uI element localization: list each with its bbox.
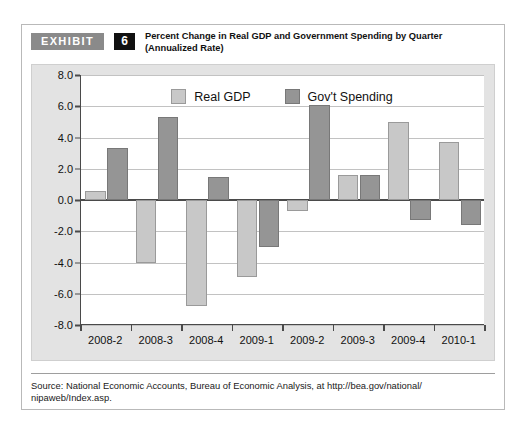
x-axis-tick-label: 2009-3 xyxy=(341,334,375,346)
bar-govt-spending-2008-2 xyxy=(107,148,128,200)
bars-group xyxy=(81,75,484,324)
x-axis-tick-mark xyxy=(131,325,133,331)
x-axis-tick-mark xyxy=(333,325,335,331)
bar-govt-spending-2008-4 xyxy=(208,177,229,200)
source-line-1: Source: National Economic Accounts, Bure… xyxy=(31,380,422,391)
x-axis-tick-mark xyxy=(434,325,436,331)
y-axis-tick-mark xyxy=(75,106,80,108)
exhibit-tag-label: EXHIBIT xyxy=(31,33,104,50)
x-axis-tick-mark xyxy=(484,325,486,331)
x-axis-tick-label: 2009-2 xyxy=(290,334,324,346)
bar-real-gdp-2010-1 xyxy=(439,142,460,200)
plot-wrapper: 8.06.04.02.00.0-2.0-4.0-6.0-8.0 2008-220… xyxy=(80,75,484,325)
x-axis-tick-mark xyxy=(282,325,284,331)
x-axis-tick-label: 2008-2 xyxy=(88,334,122,346)
bar-govt-spending-2008-3 xyxy=(158,117,179,200)
bar-govt-spending-2009-1 xyxy=(259,200,280,247)
y-axis-tick-label: 0.0 xyxy=(58,194,73,206)
source-line-2: nipaweb/Index.asp. xyxy=(31,392,495,404)
chart-plot-area xyxy=(80,75,484,325)
x-axis-tick-label: 2010-1 xyxy=(442,334,476,346)
exhibit-title: Percent Change in Real GDP and Governmen… xyxy=(145,31,495,54)
y-axis-tick-mark xyxy=(75,137,80,139)
exhibit-header: EXHIBIT 6 Percent Change in Real GDP and… xyxy=(31,32,495,62)
y-axis-tick-mark xyxy=(75,75,80,77)
bar-real-gdp-2009-1 xyxy=(237,200,258,277)
bar-govt-spending-2009-2 xyxy=(309,105,330,200)
exhibit-container: EXHIBIT 6 Percent Change in Real GDP and… xyxy=(21,24,505,410)
chart-panel: 8.06.04.02.00.0-2.0-4.0-6.0-8.0 2008-220… xyxy=(31,64,495,361)
y-axis-tick-mark xyxy=(75,262,80,264)
x-axis-tick-label: 2009-1 xyxy=(240,334,274,346)
y-axis-tick-mark xyxy=(75,168,80,170)
y-axis-tick-label: 8.0 xyxy=(58,69,73,81)
y-axis-tick-label: 2.0 xyxy=(58,163,73,175)
source-note: Source: National Economic Accounts, Bure… xyxy=(31,380,495,404)
x-axis-tick-mark xyxy=(232,325,234,331)
bar-govt-spending-2009-4 xyxy=(410,200,431,220)
bar-govt-spending-2009-3 xyxy=(360,175,381,200)
y-axis-tick-label: -4.0 xyxy=(54,257,73,269)
bar-govt-spending-2010-1 xyxy=(461,200,482,225)
y-axis-tick-mark xyxy=(75,293,80,295)
exhibit-title-line-2: (Annualized Rate) xyxy=(145,43,495,55)
y-axis-tick-label: -2.0 xyxy=(54,225,73,237)
exhibit-number-badge: 6 xyxy=(114,33,135,50)
x-axis-tick-label: 2008-3 xyxy=(139,334,173,346)
bar-real-gdp-2009-2 xyxy=(287,200,308,211)
y-axis-tick-label: 6.0 xyxy=(58,100,73,112)
bar-real-gdp-2008-3 xyxy=(136,200,157,263)
bar-real-gdp-2009-3 xyxy=(338,175,359,200)
bar-real-gdp-2008-2 xyxy=(85,191,106,200)
y-axis-tick-mark xyxy=(75,200,80,202)
y-axis-tick-mark xyxy=(75,231,80,233)
bar-real-gdp-2009-4 xyxy=(388,122,409,200)
y-axis-tick-label: -8.0 xyxy=(54,319,73,331)
x-axis-tick-mark xyxy=(383,325,385,331)
y-axis-tick-label: -6.0 xyxy=(54,288,73,300)
x-axis-tick-mark xyxy=(80,325,82,331)
x-axis-tick-label: 2009-4 xyxy=(391,334,425,346)
x-axis-tick-mark xyxy=(181,325,183,331)
source-divider xyxy=(31,373,495,374)
exhibit-title-line-1: Percent Change in Real GDP and Governmen… xyxy=(145,31,442,41)
bar-real-gdp-2008-4 xyxy=(186,200,207,306)
x-axis-tick-label: 2008-4 xyxy=(189,334,223,346)
y-axis-tick-label: 4.0 xyxy=(58,132,73,144)
